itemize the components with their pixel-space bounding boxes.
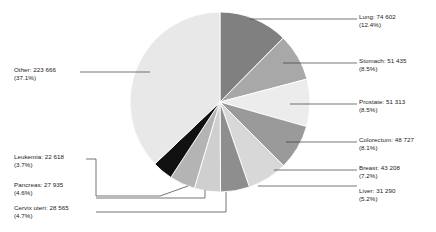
slice-label-prostate-name: Prostate: 51 313 [359,98,405,106]
slice-label-liver-percent: (5.2%) [359,195,395,203]
leader-line-pancreas [96,190,205,198]
slice-label-colorectum-percent: (8.1%) [359,144,414,152]
slice-label-stomach: Stomach: 51 435 (8.5%) [359,57,407,73]
slice-label-stomach-name: Stomach: 51 435 [359,57,407,65]
slice-label-other-name: Other: 223 666 [14,66,56,74]
slice-label-cervix-name: Cervix uteri: 28 565 [14,204,69,212]
slice-label-prostate: Prostate: 51 313 (8.5%) [359,98,405,114]
slice-label-pancreas-name: Pancreas: 27 935 [14,181,63,189]
pie-chart-figure: Lung: 74 602 (12.4%) Stomach: 51 435 (8.… [0,0,436,232]
slice-label-breast-name: Breast: 43 208 [359,164,400,172]
slice-label-stomach-percent: (8.5%) [359,65,407,73]
slice-label-lung-percent: (12.4%) [359,21,396,29]
slice-label-pancreas-percent: (4.6%) [14,189,63,197]
slice-label-liver-name: Liver: 31 290 [359,187,395,195]
slice-label-colorectum-name: Colorectum: 48 727 [359,136,414,144]
slice-label-cervix: Cervix uteri: 28 565 (4.7%) [14,204,69,220]
slice-label-lung: Lung: 74 602 (12.4%) [359,13,396,29]
slice-label-leukemia: Leukemia: 22 618 (3.7%) [14,153,64,169]
slice-label-colorectum: Colorectum: 48 727 (8.1%) [359,136,414,152]
pie-slices-group [130,12,310,192]
slice-label-cervix-percent: (4.7%) [14,212,69,220]
slice-label-liver: Liver: 31 290 (5.2%) [359,187,395,203]
slice-label-prostate-percent: (8.5%) [359,106,405,114]
slice-label-pancreas: Pancreas: 27 935 (4.6%) [14,181,63,197]
slice-label-breast-percent: (7.2%) [359,172,400,180]
slice-label-lung-name: Lung: 74 602 [359,13,396,21]
slice-label-other-percent: (37.1%) [14,74,56,82]
slice-label-leukemia-percent: (3.7%) [14,161,64,169]
slice-label-breast: Breast: 43 208 (7.2%) [359,164,400,180]
slice-label-other: Other: 223 666 (37.1%) [14,66,56,82]
slice-label-leukemia-name: Leukemia: 22 618 [14,153,64,161]
leader-line-cervix [96,192,226,212]
